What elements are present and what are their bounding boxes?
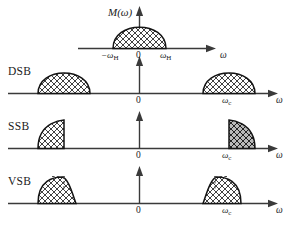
dsb-axis-label: ω: [276, 96, 283, 106]
vsb-lower-sideband-negative: [38, 177, 76, 204]
panel-ssb: [8, 111, 278, 152]
dsb-tick-omega-c: ωc: [222, 96, 231, 105]
baseband-tick-omega-h: ωH: [160, 51, 171, 60]
baseband-ylabel: M(ω): [108, 7, 132, 18]
panel-baseband: [78, 6, 216, 52]
ssb-upper-sideband-positive: [229, 120, 255, 149]
vsb-zero-label: 0: [136, 206, 141, 216]
dsb-lower-sideband-negative: [38, 73, 90, 94]
row-label-dsb: DSB: [8, 66, 31, 78]
tick-neg-omega-h-main: −ω: [101, 50, 113, 60]
ssb-tick-omega-c: ωc: [222, 151, 231, 160]
tick-neg-omega-h-sub: H: [113, 54, 118, 62]
ssb-lower-sideband-negative: [38, 120, 64, 149]
spectra-canvas: [0, 0, 289, 226]
baseband-axis-arrowhead: [206, 45, 216, 52]
tick-omega-h-sub: H: [166, 54, 171, 62]
ssb-vertical-arrowhead: [136, 111, 143, 121]
baseband-ylabel-arg: (ω): [117, 6, 132, 18]
vsb-axis-label: ω: [276, 206, 283, 216]
row-label-vsb: VSB: [8, 176, 31, 188]
baseband-vertical-arrowhead: [136, 6, 143, 16]
vsb-tick-omega-c: ωc: [222, 206, 231, 215]
ssb-axis-label: ω: [276, 151, 283, 161]
row-label-ssb: SSB: [8, 121, 29, 133]
baseband-spectrum-dome: [113, 27, 166, 48]
ssb-zero-label: 0: [136, 151, 141, 161]
vsb-upper-sideband-positive: [203, 177, 241, 204]
baseband-zero-label: 0: [136, 51, 141, 61]
spectrum-figure: M(ω) −ωH 0 ωH ω DSB 0 ωc ω SSB 0 ωc ω VS…: [0, 0, 289, 226]
baseband-tick-neg-omega-h: −ωH: [101, 51, 119, 60]
panel-vsb: [8, 166, 278, 207]
panel-dsb: [8, 56, 278, 97]
dsb-zero-label: 0: [136, 96, 141, 106]
baseband-axis-label: ω: [220, 51, 227, 61]
vsb-vertical-arrowhead: [136, 166, 143, 176]
baseband-ylabel-symbol: M: [108, 6, 117, 18]
dsb-sideband-positive: [203, 73, 255, 94]
